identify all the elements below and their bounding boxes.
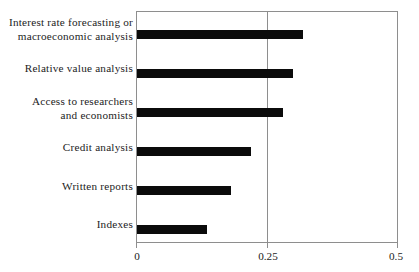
category-label-indexes: Indexes [0, 218, 133, 232]
category-label-interest-rate-forecasting: Interest rate forecasting or macroeconom… [0, 16, 133, 43]
category-label-credit-analysis: Credit analysis [0, 141, 133, 155]
category-label-access-to-researchers: Access to researchers and economists [0, 95, 133, 122]
bar-indexes [137, 225, 207, 234]
x-tick-mark-05 [397, 243, 398, 248]
bar-written-reports [137, 186, 231, 195]
x-tick-mark-025 [267, 243, 268, 248]
x-tick-label-025: 0.25 [258, 250, 278, 263]
bar-credit-analysis [137, 147, 251, 156]
category-label-written-reports: Written reports [0, 180, 133, 194]
x-tick-mark-0 [136, 243, 137, 248]
gridline-0.25 [267, 12, 268, 242]
x-tick-label-0: 0 [134, 250, 140, 263]
plot-area [136, 11, 398, 243]
bar-interest-rate-forecasting [137, 30, 303, 39]
bar-access-to-researchers [137, 108, 283, 117]
bar-relative-value-analysis [137, 69, 293, 78]
x-tick-label-05: 0.5 [389, 250, 403, 263]
horizontal-bar-chart: Interest rate forecasting or macroeconom… [0, 0, 419, 272]
category-label-relative-value-analysis: Relative value analysis [0, 62, 133, 76]
